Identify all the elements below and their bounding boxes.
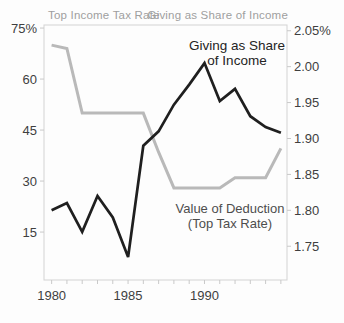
plot-area: 19801985199075%604530152.05%2.001.951.90…	[0, 0, 344, 323]
x-tick-label: 1980	[37, 288, 66, 303]
left-tick-label: 75%	[11, 21, 37, 36]
annotation-line: of Income	[189, 53, 285, 68]
left-tick-label: 45	[23, 123, 37, 138]
right-tick-label: 1.80	[294, 203, 319, 218]
left-tick-label: 60	[23, 72, 37, 87]
chart-figure: Top Income Tax Rate Giving as Share of I…	[0, 0, 344, 323]
x-tick-label: 1990	[190, 288, 219, 303]
left-tick-label: 30	[23, 174, 37, 189]
annotation-line: Value of Deduction	[176, 201, 285, 216]
right-tick-label: 1.95	[294, 95, 319, 110]
annotation-line: (Top Tax Rate)	[176, 216, 285, 231]
right-tick-label: 1.85	[294, 167, 319, 182]
left-tick-label: 15	[23, 225, 37, 240]
right-tick-label: 2.00	[294, 59, 319, 74]
annotation-line: Giving as Share	[189, 38, 285, 53]
right-tick-label: 2.05%	[294, 23, 331, 38]
right-tick-label: 1.90	[294, 131, 319, 146]
annotation-giving-as-share: Giving as Share of Income	[189, 38, 285, 68]
annotation-value-of-deduction: Value of Deduction (Top Tax Rate)	[176, 201, 285, 231]
x-tick-label: 1985	[114, 288, 143, 303]
right-tick-label: 1.75	[294, 239, 319, 254]
